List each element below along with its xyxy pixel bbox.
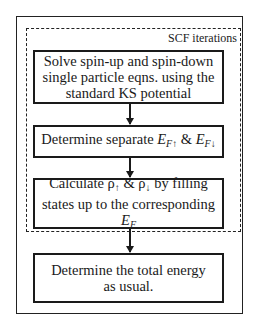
energy-symbol: E (121, 212, 130, 228)
box-text-line: standard KS potential (43, 85, 215, 101)
box-text: & (120, 175, 139, 191)
box-text-line: Calculate ρ↑ & ρ↓ by filling (35, 175, 222, 196)
box-text: Calculate (49, 175, 107, 191)
spin-down-arrow-icon: ↓ (211, 138, 216, 149)
box-text: & (177, 131, 196, 147)
box-text-line: Solve spin-up and spin-down (43, 53, 215, 69)
box-text: Determine separate (41, 131, 157, 147)
rho-symbol: ρ (108, 175, 115, 191)
box-text-line: states up to the corresponding EF (35, 196, 222, 233)
box-text-line: single particle eqns. using the (43, 69, 215, 85)
total-energy-box: Determine the total energy as usual. (33, 253, 224, 303)
fermi-subscript: F (130, 219, 136, 230)
energy-symbol: E (196, 131, 205, 147)
flow-arrow-down-icon (129, 229, 131, 252)
calculate-densities-box: Calculate ρ↑ & ρ↓ by filling states up t… (33, 178, 224, 229)
flow-arrow-down-icon (129, 104, 131, 124)
scf-iterations-label: SCF iterations (168, 31, 237, 46)
energy-symbol: E (157, 131, 166, 147)
solve-ks-equations-box: Solve spin-up and spin-down single parti… (33, 50, 224, 104)
box-text: by filling (151, 175, 208, 191)
determine-fermi-energies-box: Determine separate EF↑ & EF↓ (33, 125, 224, 158)
box-text-line: as usual. (51, 278, 206, 294)
box-text-line: Determine the total energy (51, 262, 206, 278)
box-text: states up to the corresponding (42, 196, 215, 212)
rho-symbol: ρ (138, 175, 145, 191)
